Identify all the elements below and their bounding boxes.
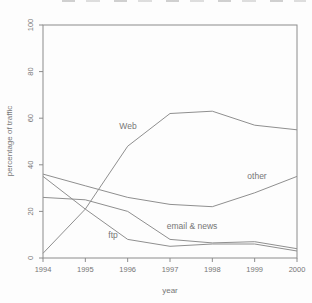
y-tick-label: 0 [26, 256, 35, 260]
x-tick-label: 2000 [289, 265, 306, 274]
statistical-plot-figure: 0204060801001994199519961997199819992000… [0, 0, 312, 303]
x-tick-label: 1998 [204, 265, 221, 274]
series-lines [43, 111, 297, 253]
y-axis-title: percentage of traffic [5, 106, 14, 177]
y-tick-label: 80 [26, 67, 35, 75]
axes-ticks: 0204060801001994199519961997199819992000 [26, 19, 305, 274]
traffic-line-chart: 0204060801001994199519961997199819992000… [0, 0, 312, 303]
x-tick-label: 1999 [246, 265, 263, 274]
series-label-email-news: email & news [167, 221, 218, 231]
x-axis-title: year [162, 286, 178, 295]
cropped-title-remnant [62, 0, 306, 2]
x-tick-label: 1996 [119, 265, 136, 274]
series-line-web [43, 111, 297, 253]
series-label-ftp: ftp [108, 230, 118, 240]
series-label-web: Web [119, 121, 137, 131]
x-tick-label: 1997 [162, 265, 179, 274]
series-label-other: other [247, 171, 267, 181]
y-tick-label: 20 [26, 207, 35, 215]
y-tick-label: 40 [26, 161, 35, 169]
x-tick-label: 1994 [35, 265, 52, 274]
y-tick-label: 60 [26, 114, 35, 122]
series-labels: Webotheremail & newsftp [108, 121, 267, 240]
y-tick-label: 100 [26, 19, 35, 32]
x-tick-label: 1995 [77, 265, 94, 274]
